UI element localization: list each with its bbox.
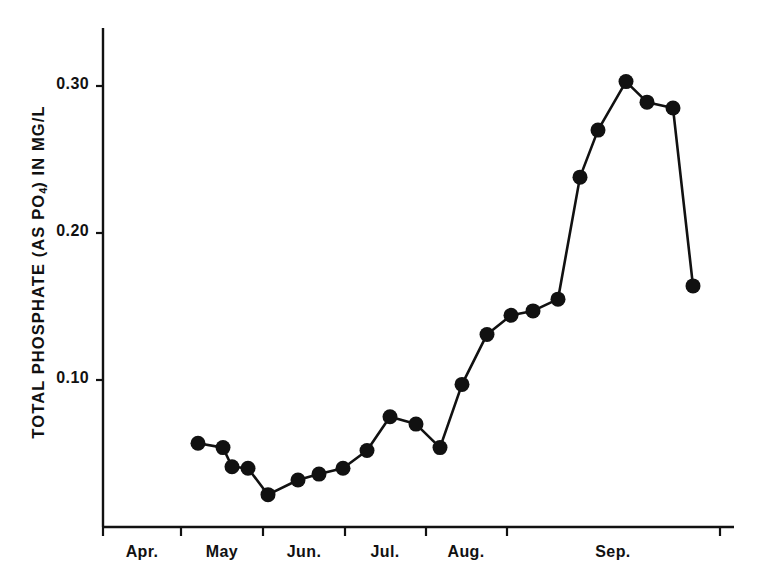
data-point-marker: [225, 459, 240, 474]
data-point-marker: [666, 101, 681, 116]
x-tick-label: May: [187, 543, 257, 561]
data-point-marker: [480, 327, 495, 342]
data-point-marker: [686, 278, 701, 293]
data-point-marker: [409, 417, 424, 432]
data-point-marker: [383, 409, 398, 424]
data-point-marker: [455, 377, 470, 392]
x-tick-label: Aug.: [431, 543, 501, 561]
x-tick-label: Apr.: [107, 543, 177, 561]
x-tick-label: Sep.: [578, 543, 648, 561]
y-tick-label: 0.10: [29, 369, 89, 387]
chart-figure: TOTAL PHOSPHATE (AS PO4) IN MG/L 0.300.2…: [0, 0, 757, 587]
data-point-marker: [312, 467, 327, 482]
y-tick-label: 0.30: [29, 75, 89, 93]
data-point-marker: [504, 308, 519, 323]
data-point-marker: [619, 74, 634, 89]
data-point-marker: [551, 292, 566, 307]
plot-area: [0, 0, 757, 587]
data-point-marker: [591, 123, 606, 138]
data-point-marker: [291, 472, 306, 487]
axes: [96, 28, 734, 536]
data-point-marker: [360, 443, 375, 458]
data-point-marker: [640, 95, 655, 110]
x-tick-label: Jun.: [269, 543, 339, 561]
data-point-marker: [261, 487, 276, 502]
series-line: [198, 82, 693, 495]
data-point-marker: [241, 461, 256, 476]
data-series: [191, 74, 701, 502]
data-point-marker: [526, 303, 541, 318]
data-point-marker: [573, 170, 588, 185]
data-point-marker: [336, 461, 351, 476]
data-point-marker: [433, 440, 448, 455]
y-tick-label: 0.20: [29, 222, 89, 240]
x-tick-label: Jul.: [350, 543, 420, 561]
data-point-marker: [191, 436, 206, 451]
data-point-marker: [216, 440, 231, 455]
